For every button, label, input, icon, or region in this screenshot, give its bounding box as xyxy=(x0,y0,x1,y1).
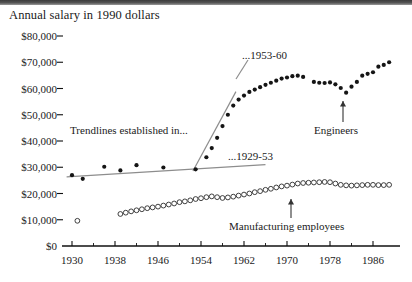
data-point-manufacturing xyxy=(387,182,392,187)
data-point-manufacturing xyxy=(279,184,284,189)
data-point-manufacturing xyxy=(129,209,134,214)
data-point-engineers xyxy=(220,124,224,128)
data-point-manufacturing xyxy=(354,183,359,188)
data-point-manufacturing xyxy=(150,205,155,210)
data-point-engineers xyxy=(215,136,219,140)
data-point-engineers xyxy=(285,75,289,79)
data-point-engineers xyxy=(387,60,391,64)
data-point-engineers xyxy=(81,177,85,181)
data-point-manufacturing xyxy=(258,189,263,194)
x-axis-tick-label: 1970 xyxy=(276,254,298,266)
data-point-engineers xyxy=(371,70,375,74)
data-point-manufacturing xyxy=(75,218,80,223)
data-point-engineers xyxy=(339,86,343,90)
data-point-engineers xyxy=(366,72,370,76)
data-point-manufacturing xyxy=(199,196,204,201)
data-point-manufacturing xyxy=(177,200,182,205)
data-point-engineers xyxy=(360,74,364,78)
data-point-engineers xyxy=(161,165,165,169)
data-point-engineers xyxy=(296,74,300,78)
data-point-manufacturing xyxy=(285,183,290,188)
data-point-engineers xyxy=(301,75,305,79)
data-point-manufacturing xyxy=(306,180,311,185)
data-point-manufacturing xyxy=(274,185,279,190)
data-point-manufacturing xyxy=(365,182,370,187)
data-point-manufacturing xyxy=(204,195,209,200)
callout-arrow-manufacturing-head xyxy=(288,199,294,205)
annotation-engineers: Engineers xyxy=(314,124,358,136)
trendline-label-leader xyxy=(236,60,248,79)
data-point-engineers xyxy=(323,81,327,85)
data-point-engineers xyxy=(253,87,257,91)
data-point-engineers xyxy=(194,167,198,171)
data-point-manufacturing xyxy=(166,202,171,207)
data-point-engineers xyxy=(118,168,122,172)
data-point-engineers xyxy=(344,91,348,95)
data-point-engineers xyxy=(231,103,235,107)
data-point-engineers xyxy=(317,81,321,85)
x-axis-tick-label: 1978 xyxy=(319,254,341,266)
data-point-manufacturing xyxy=(242,192,247,197)
annotation-trendline-1953-60: ...1953-60 xyxy=(242,49,287,61)
x-axis-tick-label: 1962 xyxy=(233,254,255,266)
data-point-engineers xyxy=(376,65,380,69)
annotation-manufacturing-employees: Manufacturing employees xyxy=(229,220,344,232)
data-point-engineers xyxy=(290,74,294,78)
chart-figure: Annual salary in 1990 dollars $0$10,000$… xyxy=(0,0,412,282)
data-point-manufacturing xyxy=(220,196,225,201)
data-point-manufacturing xyxy=(328,180,333,185)
annotation-trendlines-intro: Trendlines established in... xyxy=(70,124,188,136)
data-point-manufacturing xyxy=(172,201,177,206)
annotation-trendline-1929-53: ...1929-53 xyxy=(228,150,273,162)
data-point-manufacturing xyxy=(295,181,300,186)
data-point-engineers xyxy=(242,93,246,97)
data-point-manufacturing xyxy=(252,190,257,195)
data-point-manufacturing xyxy=(268,186,273,191)
data-point-manufacturing xyxy=(349,183,354,188)
data-point-manufacturing xyxy=(317,180,322,185)
data-point-manufacturing xyxy=(263,187,268,192)
data-point-manufacturing xyxy=(311,180,316,185)
data-point-manufacturing xyxy=(236,193,241,198)
data-point-manufacturing xyxy=(161,203,166,208)
data-point-manufacturing xyxy=(193,197,198,202)
data-point-engineers xyxy=(70,173,74,177)
data-point-manufacturing xyxy=(123,210,128,215)
data-point-manufacturing xyxy=(118,212,123,217)
data-point-manufacturing xyxy=(145,206,150,211)
data-point-manufacturing xyxy=(134,208,139,213)
data-point-engineers xyxy=(258,85,262,89)
data-point-manufacturing xyxy=(188,198,193,203)
x-axis-tick-label: 1946 xyxy=(147,254,169,266)
data-point-engineers xyxy=(274,79,278,83)
data-point-engineers xyxy=(210,146,214,150)
data-point-engineers xyxy=(382,63,386,67)
data-point-engineers xyxy=(328,80,332,84)
data-point-manufacturing xyxy=(182,199,187,204)
data-point-manufacturing xyxy=(360,183,365,188)
data-point-manufacturing xyxy=(225,195,230,200)
data-point-engineers xyxy=(226,113,230,117)
data-point-manufacturing xyxy=(371,182,376,187)
data-point-manufacturing xyxy=(338,182,343,187)
data-point-engineers xyxy=(247,90,251,94)
x-axis-tick-label: 1930 xyxy=(61,254,83,266)
data-point-manufacturing xyxy=(301,181,306,186)
data-point-manufacturing xyxy=(247,191,252,196)
x-axis-tick-label: 1986 xyxy=(362,254,384,266)
trendline xyxy=(67,165,266,177)
data-point-manufacturing xyxy=(333,181,338,186)
data-point-engineers xyxy=(349,85,353,89)
data-point-engineers xyxy=(312,80,316,84)
data-point-engineers xyxy=(263,83,267,87)
data-point-engineers xyxy=(333,82,337,86)
data-point-manufacturing xyxy=(209,194,214,199)
data-point-manufacturing xyxy=(322,180,327,185)
data-point-engineers xyxy=(355,80,359,84)
x-axis-tick-label: 1938 xyxy=(104,254,126,266)
data-point-manufacturing xyxy=(231,194,236,199)
data-point-manufacturing xyxy=(215,195,220,200)
data-point-manufacturing xyxy=(381,183,386,188)
data-point-manufacturing xyxy=(290,182,295,187)
data-point-manufacturing xyxy=(376,183,381,188)
